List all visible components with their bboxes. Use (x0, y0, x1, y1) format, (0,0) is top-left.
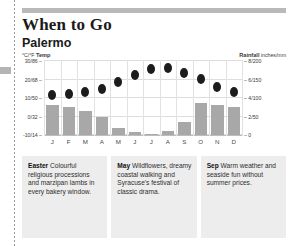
month-label: J (127, 138, 143, 145)
highlight-card: May Wildflowers, dreamy coastal walking … (111, 156, 196, 238)
page-edge-tab (0, 67, 11, 74)
rainfall-bar (63, 107, 76, 135)
month-axis: JFMAMJJASOND (44, 138, 242, 148)
left-axis-tick: -10/14 – (16, 132, 42, 138)
right-axis-tick: – 8/200 (244, 58, 261, 64)
right-axis-tick: – 2/50 (244, 114, 258, 120)
temperature-dot (48, 90, 56, 100)
right-axis-tick: – 6/150 (244, 77, 261, 83)
climate-chart (44, 60, 242, 136)
month-label: D (226, 138, 242, 145)
month-separator (77, 60, 78, 136)
page-title: When to Go (22, 15, 112, 35)
rainfall-bar (79, 111, 92, 135)
highlight-card-term: Easter (28, 162, 48, 169)
temperature-dot (147, 64, 155, 74)
temperature-dot (114, 77, 122, 87)
temperature-dot (180, 68, 188, 78)
month-label: M (110, 138, 126, 145)
when-to-go-panel: When to Go Palermo °C/°F Temp Rainfall i… (0, 0, 293, 246)
rainfall-bar (162, 131, 175, 135)
temperature-dot (81, 87, 89, 97)
month-separator (143, 60, 144, 136)
month-label: S (176, 138, 192, 145)
rainfall-bar (96, 117, 109, 136)
temperature-dot (213, 82, 221, 92)
left-axis-tick: 0/32 – (16, 114, 42, 120)
month-label: N (209, 138, 225, 145)
right-axis-tick: – 4/100 (244, 95, 261, 101)
highlight-card: Sep Warm weather and seaside fun without… (201, 156, 286, 238)
left-axis-tick: 10/50 – (16, 95, 42, 101)
header-rule (22, 8, 286, 13)
left-axis-tick: 20/68 – (16, 77, 42, 83)
highlight-card-term: Sep (207, 162, 219, 169)
city-subtitle: Palermo (22, 36, 71, 50)
temperature-dot (131, 70, 139, 80)
left-axis-ticks: 30/86 –20/68 –10/50 –0/32 –-10/14 – (15, 60, 42, 136)
month-separator (44, 60, 45, 136)
month-separator (127, 60, 128, 136)
month-separator (242, 60, 243, 136)
rainfall-bar (195, 103, 208, 135)
highlight-card-text: Sep Warm weather and seaside fun without… (207, 162, 281, 188)
month-separator (110, 60, 111, 136)
month-label: J (143, 138, 159, 145)
rainfall-bar (46, 105, 59, 135)
right-axis-tick: – 0 (244, 132, 251, 138)
highlight-card: Easter Colourful religious processions a… (22, 156, 107, 238)
temperature-dot (164, 63, 172, 73)
rainfall-bar (145, 134, 158, 135)
right-axis-unit: inches/mm (261, 52, 286, 58)
temperature-dot (197, 74, 205, 84)
month-label: O (193, 138, 209, 145)
month-label: F (61, 138, 77, 145)
month-label: A (160, 138, 176, 145)
rainfall-bar (129, 132, 142, 135)
month-label: M (77, 138, 93, 145)
temperature-dot (98, 84, 106, 94)
month-separator (209, 60, 210, 136)
rainfall-bar (112, 128, 125, 135)
highlight-cards: Easter Colourful religious processions a… (22, 156, 286, 238)
month-label: J (44, 138, 60, 145)
highlight-card-term: May (117, 162, 130, 169)
month-separator (176, 60, 177, 136)
rainfall-bar (178, 122, 191, 135)
temperature-dot (230, 87, 238, 97)
month-label: A (94, 138, 110, 145)
rainfall-bar (211, 105, 224, 135)
rainfall-bar (228, 107, 241, 135)
temperature-dot (65, 89, 73, 99)
left-axis-tick: 30/86 – (16, 58, 42, 64)
month-separator (160, 60, 161, 136)
highlight-card-text: May Wildflowers, dreamy coastal walking … (117, 162, 191, 196)
highlight-card-text: Easter Colourful religious processions a… (28, 162, 102, 196)
right-axis-ticks: – 8/200– 6/150– 4/100– 2/50– 0 (244, 60, 290, 136)
